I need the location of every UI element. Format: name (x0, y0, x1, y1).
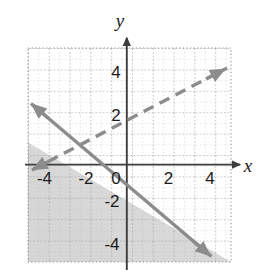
x-tick-label-neg2: -2 (78, 169, 93, 188)
y-tick-label-2: 2 (111, 106, 120, 125)
coordinate-plane: x y -4 -2 0 2 4 4 2 -2 -4 (0, 0, 276, 275)
x-tick-label-4: 4 (205, 169, 214, 188)
x-tick-label-neg4: -4 (37, 169, 52, 188)
x-tick-label-0: 0 (111, 169, 120, 188)
x-tick-label-2: 2 (164, 169, 173, 188)
y-tick-label-4: 4 (111, 63, 120, 82)
graph-figure: x y -4 -2 0 2 4 4 2 -2 -4 (0, 0, 276, 275)
y-tick-label-neg2: -2 (104, 192, 119, 211)
major-gridlines (28, 48, 231, 262)
y-axis-label: y (114, 10, 125, 31)
x-axis-label: x (243, 155, 253, 176)
y-tick-label-neg4: -4 (104, 235, 119, 254)
